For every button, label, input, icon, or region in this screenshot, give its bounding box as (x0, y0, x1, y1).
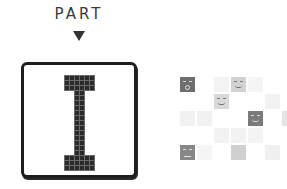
face-tile-smile-dark[interactable] (214, 94, 229, 109)
glyph-pixel (70, 81, 74, 85)
face-mouth-icon (218, 102, 225, 105)
glyph-pixel (90, 86, 94, 90)
glyph-pixel (75, 116, 79, 120)
glyph-pixel (80, 81, 84, 85)
glyph-pixel (80, 96, 84, 100)
glyph-pixel (75, 161, 79, 165)
blank-tile[interactable] (197, 145, 212, 160)
face-mouth-icon (235, 85, 242, 88)
glyph-pixel (75, 76, 79, 80)
glyph-pixel (90, 81, 94, 85)
glyph-pixel (75, 126, 79, 130)
glyph-pixel (85, 81, 89, 85)
glyph-pixel (70, 166, 74, 170)
glyph-pixel (75, 101, 79, 105)
glyph-pixel (70, 161, 74, 165)
blank-tile[interactable] (265, 94, 280, 109)
blank-tile[interactable] (248, 77, 263, 92)
glyph-preview-frame (21, 62, 137, 178)
glyph-pixel (75, 81, 79, 85)
glyph-pixel (85, 86, 89, 90)
glyph-pixel (80, 86, 84, 90)
glyph-pixel (85, 156, 89, 160)
glyph-pixel (80, 121, 84, 125)
glyph-pixel (80, 161, 84, 165)
glyph-pixel (90, 161, 94, 165)
glyph-pixel (75, 111, 79, 115)
glyph-pixel (85, 76, 89, 80)
blank-tile[interactable] (282, 111, 287, 126)
glyph-pixel (80, 166, 84, 170)
face-mouth-icon (184, 154, 191, 157)
glyph-pixel (80, 151, 84, 155)
blank-tile[interactable] (265, 145, 280, 160)
glyph-pixel (75, 121, 79, 125)
face-eye-icon (240, 81, 243, 82)
glyph-pixel (75, 146, 79, 150)
part-label: PART (0, 5, 158, 23)
glyph-pixel (65, 76, 69, 80)
glyph-pixel (70, 86, 74, 90)
glyph-pixel (70, 156, 74, 160)
face-tile-smile-dark[interactable] (231, 77, 246, 92)
blank-tile[interactable] (180, 111, 195, 126)
blank-tile[interactable] (231, 128, 246, 143)
face-eye-icon (183, 81, 186, 82)
glyph-pixel (65, 166, 69, 170)
glyph-pixel (70, 76, 74, 80)
blank-tile[interactable] (197, 111, 212, 126)
glyph-pixel (80, 146, 84, 150)
blank-tile[interactable] (214, 128, 229, 143)
face-mouth-icon (185, 85, 190, 90)
down-triangle-icon (73, 31, 85, 41)
face-eye-icon (257, 115, 260, 116)
face-eye-icon (183, 149, 186, 150)
face-tile-squint[interactable] (180, 145, 195, 160)
glyph-pixel (65, 86, 69, 90)
glyph-pixel (75, 131, 79, 135)
face-eye-icon (223, 98, 226, 99)
glyph-pixel (85, 161, 89, 165)
face-eye-icon (217, 98, 220, 99)
face-tile-surprised[interactable] (180, 77, 195, 92)
glyph-pixel (75, 136, 79, 140)
face-tile-grin[interactable] (248, 111, 263, 126)
glyph-pixel (90, 156, 94, 160)
glyph-pixel (80, 76, 84, 80)
glyph-pixel (65, 81, 69, 85)
glyph-pixel (75, 106, 79, 110)
blank-tile[interactable] (231, 145, 246, 160)
face-eye-icon (189, 149, 192, 150)
glyph-pixel (75, 151, 79, 155)
glyph-pixel (75, 86, 79, 90)
glyph-pixel (85, 166, 89, 170)
glyph-pixel (80, 106, 84, 110)
glyph-pixel (75, 166, 79, 170)
glyph-pixel (80, 111, 84, 115)
glyph-pixel (65, 156, 69, 160)
face-eye-icon (251, 115, 254, 116)
glyph-pixel (90, 166, 94, 170)
glyph-pixel (65, 161, 69, 165)
glyph-pixel (80, 156, 84, 160)
glyph-pixel (75, 91, 79, 95)
glyph-pixel (80, 91, 84, 95)
glyph-pixel (75, 156, 79, 160)
glyph-pixel (80, 101, 84, 105)
glyph-pixel (80, 131, 84, 135)
glyph-pixel (75, 96, 79, 100)
glyph-pixel (90, 76, 94, 80)
glyph-pixel (80, 116, 84, 120)
face-eye-icon (189, 81, 192, 82)
glyph-pixel (80, 126, 84, 130)
glyph-pixel (80, 141, 84, 145)
blank-tile[interactable] (214, 77, 229, 92)
glyph-pixel (75, 141, 79, 145)
glyph-pixel (80, 136, 84, 140)
blank-tile[interactable] (248, 128, 263, 143)
face-mouth-icon (252, 119, 259, 122)
face-eye-icon (234, 81, 237, 82)
